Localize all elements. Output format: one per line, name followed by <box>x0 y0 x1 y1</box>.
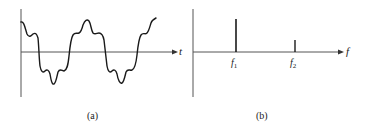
panel-b-caption: (b) <box>256 111 268 121</box>
f1-label: f1 <box>231 58 237 70</box>
panel-a-waveform <box>21 18 156 84</box>
f2-label: f2 <box>290 58 296 70</box>
figure-canvas <box>0 0 366 130</box>
panel-b-arrowhead-icon <box>338 50 344 55</box>
f1-label-subscript: 1 <box>234 62 238 70</box>
panel-a-caption: (a) <box>87 111 98 121</box>
panel-b-f-label: f <box>346 46 349 57</box>
panel-a-arrowhead-icon <box>172 50 178 55</box>
f2-label-subscript: 2 <box>293 62 297 70</box>
panel-a-t-label: t <box>179 46 182 57</box>
